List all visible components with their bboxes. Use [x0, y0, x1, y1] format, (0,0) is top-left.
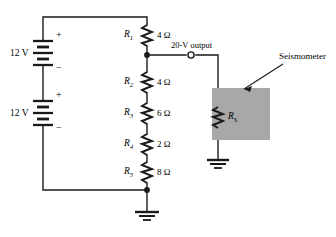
resistor-r4-symbol [142, 134, 152, 155]
battery-1-plus-sign: + [56, 30, 62, 40]
resistor-r1-symbol [142, 25, 152, 46]
circuit-diagram-canvas: 12 V + − 12 V + − R1 4 Ω R2 4 Ω R3 6 Ω R… [0, 0, 336, 237]
resistor-r5-label: R5 [124, 167, 133, 179]
battery-1-voltage-label: 12 V [10, 49, 29, 59]
seismometer-callout-arrow [244, 64, 283, 92]
seismometer-label: Seismometer [279, 52, 326, 61]
battery-1-minus-sign: − [56, 63, 62, 73]
ground-symbol-main [135, 212, 159, 220]
resistor-r2-label: R2 [124, 77, 133, 89]
resistor-r3-subscript: 3 [130, 112, 133, 119]
resistor-rs-label: RS [228, 112, 237, 124]
output-terminal-icon[interactable] [188, 52, 194, 58]
resistor-r1-value: 4 Ω [157, 31, 170, 40]
resistor-r1-subscript: 1 [130, 34, 133, 41]
resistor-r4-subscript: 4 [130, 143, 133, 150]
battery-1-symbol [33, 41, 53, 65]
resistor-r2-symbol [142, 72, 152, 93]
junction-node-ground [144, 187, 150, 193]
resistor-r2-value: 4 Ω [157, 78, 170, 87]
resistor-r5-subscript: 5 [130, 171, 133, 178]
resistor-r3-value: 6 Ω [157, 109, 170, 118]
ground-symbol-seismometer [207, 160, 229, 168]
resistor-r2-subscript: 2 [130, 81, 133, 88]
junction-node-output-tap [144, 52, 150, 58]
resistor-r5-value: 8 Ω [157, 168, 170, 177]
wire-bottom-return [43, 126, 147, 190]
battery-2-plus-sign: + [56, 90, 62, 100]
resistor-r3-symbol [142, 103, 152, 124]
output-terminal-label: 20-V output [171, 41, 212, 50]
battery-2-voltage-label: 12 V [10, 109, 29, 119]
resistor-r4-value: 2 Ω [157, 140, 170, 149]
resistor-r3-label: R3 [124, 108, 133, 120]
battery-2-symbol [33, 101, 53, 125]
resistor-r5-symbol [142, 162, 152, 183]
resistor-rs-subscript: S [234, 116, 237, 123]
resistor-r4-label: R4 [124, 139, 133, 151]
battery-2-minus-sign: − [56, 123, 62, 133]
resistor-r1-label: R1 [124, 30, 133, 42]
